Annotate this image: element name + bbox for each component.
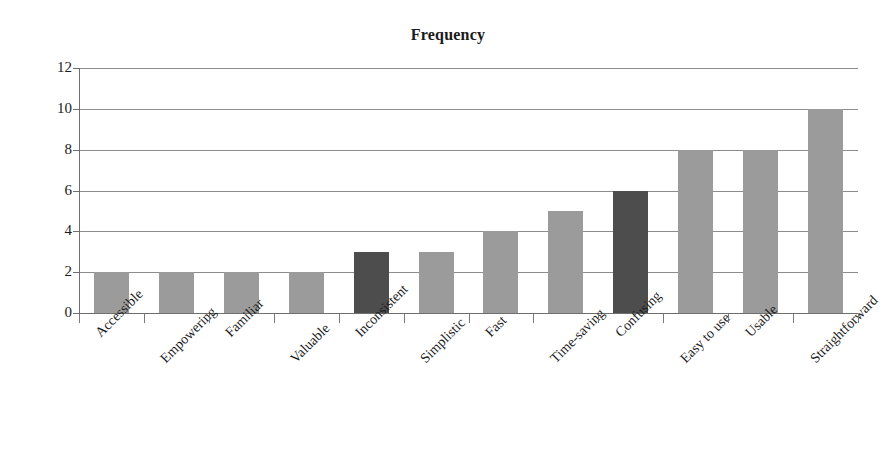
y-tick-mark-10 bbox=[73, 109, 80, 110]
x-label-fast: Fast bbox=[483, 313, 509, 339]
x-label-simplistic: Simplistic bbox=[418, 316, 468, 366]
x-tick-mark-1 bbox=[144, 314, 145, 323]
x-tick-mark-10 bbox=[728, 314, 729, 323]
x-label-usable: Usable bbox=[743, 303, 780, 340]
x-label-accessible: Accessible bbox=[93, 287, 146, 340]
x-label-straightforward: Straightforward bbox=[808, 293, 881, 366]
x-label-empowering: Empowering bbox=[158, 305, 219, 366]
x-tick-mark-5 bbox=[404, 314, 405, 323]
y-tick-mark-12 bbox=[73, 68, 80, 69]
x-tick-mark-2 bbox=[209, 314, 210, 323]
x-tick-mark-7 bbox=[533, 314, 534, 323]
x-tick-mark-6 bbox=[469, 314, 470, 323]
x-tick-mark-9 bbox=[663, 314, 664, 323]
y-tick-mark-6 bbox=[73, 191, 80, 192]
x-label-easy-to-use: Easy to use bbox=[678, 311, 733, 366]
y-tick-mark-4 bbox=[73, 231, 80, 232]
y-tick-mark-8 bbox=[73, 150, 80, 151]
x-label-familiar: Familiar bbox=[223, 296, 266, 339]
x-tick-mark-3 bbox=[274, 314, 275, 323]
y-tick-mark-2 bbox=[73, 272, 80, 273]
x-tick-mark-4 bbox=[339, 314, 340, 323]
x-tick-mark-11 bbox=[793, 314, 794, 323]
x-tick-mark-0 bbox=[79, 314, 80, 323]
x-label-valuable: Valuable bbox=[288, 321, 333, 366]
x-tick-mark-8 bbox=[598, 314, 599, 323]
frequency-bar-chart: Frequency 024681012 AccessibleEmpowering… bbox=[0, 0, 896, 452]
x-label-inconsistent: Inconsistent bbox=[353, 282, 411, 340]
x-label-confusing: Confusing bbox=[613, 289, 664, 340]
x-axis-labels: AccessibleEmpoweringFamiliarValuableInco… bbox=[0, 0, 896, 452]
x-tick-mark-12 bbox=[858, 314, 859, 323]
